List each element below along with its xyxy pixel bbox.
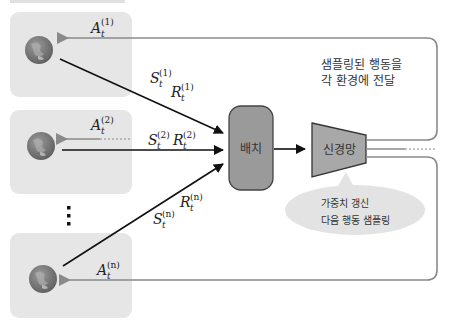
- globe-icon: [27, 132, 55, 160]
- svg-text:A: A: [95, 262, 107, 278]
- dispatch-note-line1: 샘플링된 행동을: [321, 57, 402, 72]
- dispatch-note-line2: 각 환경에 전달: [321, 74, 395, 88]
- svg-text:(n): (n): [107, 260, 120, 270]
- svg-text:t: t: [157, 141, 161, 151]
- more-environments-ellipsis: [67, 206, 71, 226]
- svg-text:(2): (2): [183, 130, 196, 140]
- network-label: 신경망: [323, 143, 356, 157]
- cut-off-caption: [10, 0, 125, 3]
- svg-text:t: t: [101, 29, 105, 39]
- svg-text:A: A: [89, 20, 101, 36]
- svg-text:(1): (1): [159, 68, 172, 78]
- svg-text:t: t: [190, 203, 194, 213]
- state-label-1: S t (1): [150, 68, 172, 89]
- svg-text:t: t: [181, 93, 185, 103]
- svg-text:t: t: [159, 79, 163, 89]
- globe-icon: [29, 265, 57, 293]
- actor-batch-diagram: 배치 신경망 A t (1) S t (1) R t (1) A t (2) S…: [0, 0, 449, 323]
- environment-box-n: [10, 233, 132, 318]
- reward-label-2: R t (2): [172, 130, 196, 151]
- batch-label: 배치: [240, 142, 262, 156]
- svg-text:t: t: [183, 141, 187, 151]
- svg-text:(2): (2): [157, 130, 170, 140]
- svg-text:(n): (n): [162, 209, 175, 219]
- update-callout-line2: 다음 행동 샘플링: [321, 215, 390, 226]
- svg-text:(2): (2): [101, 115, 114, 125]
- svg-text:t: t: [162, 220, 166, 230]
- reward-label-n: R t (n): [179, 192, 203, 213]
- svg-text:(1): (1): [181, 82, 194, 92]
- svg-text:(1): (1): [101, 17, 114, 27]
- update-callout-line1: 가중치 갱신: [321, 198, 369, 209]
- state-label-2: S t (2): [148, 130, 170, 151]
- state-label-n: S t (n): [153, 209, 175, 230]
- globe-icon: [25, 36, 53, 64]
- svg-text:t: t: [107, 271, 111, 281]
- svg-text:A: A: [89, 117, 101, 133]
- reward-label-1: R t (1): [170, 82, 194, 103]
- svg-text:t: t: [101, 126, 105, 136]
- svg-text:(n): (n): [190, 192, 203, 202]
